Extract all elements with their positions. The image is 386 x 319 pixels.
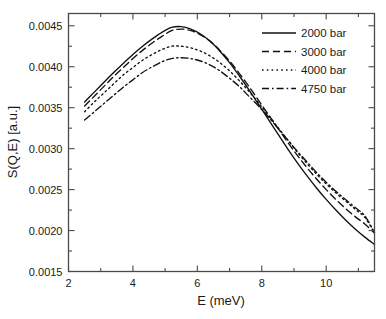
x-tick-label: 4 (130, 277, 136, 289)
legend-label-0: 2000 bar (301, 27, 347, 39)
line-chart: 2468100.00150.00200.00250.00300.00350.00… (0, 0, 386, 319)
legend-label-3: 4750 bar (301, 83, 347, 95)
x-tick-label: 8 (259, 277, 265, 289)
y-tick-label: 0.0030 (29, 143, 63, 155)
legend-label-2: 4000 bar (301, 64, 347, 76)
y-tick-label: 0.0045 (29, 20, 63, 32)
x-tick-label: 10 (320, 277, 332, 289)
legend-label-1: 3000 bar (301, 46, 347, 58)
tick-label-layer: 2468100.00150.00200.00250.00300.00350.00… (29, 20, 332, 289)
chart-figure: 2468100.00150.00200.00250.00300.00350.00… (0, 0, 386, 319)
x-tick-label: 6 (194, 277, 200, 289)
x-axis-title: E (meV) (197, 293, 245, 308)
y-tick-label: 0.0040 (29, 61, 63, 73)
y-tick-label: 0.0025 (29, 184, 63, 196)
y-tick-label: 0.0035 (29, 102, 63, 114)
x-tick-label: 2 (65, 277, 71, 289)
y-tick-label: 0.0015 (29, 266, 63, 278)
axis-title-layer: E (meV) S(Q,E) [a.u.] (5, 106, 245, 308)
legend: 2000 bar3000 bar4000 bar4750 bar (262, 27, 347, 95)
y-axis-title: S(Q,E) [a.u.] (5, 106, 20, 178)
curve-layer (85, 26, 375, 244)
series-line-0 (85, 26, 375, 244)
y-tick-label: 0.0020 (29, 225, 63, 237)
